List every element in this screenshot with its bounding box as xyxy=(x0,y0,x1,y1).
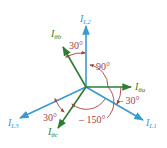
phasor-diagram: IL2 IL1 IL3 Iθa Iθb Iθc 30° 90° – 30° 30… xyxy=(0,0,167,148)
angle-label-30-top: 30° xyxy=(69,40,83,51)
label-IL1: IL1 xyxy=(145,117,157,130)
label-Ib: Iθb xyxy=(50,28,62,41)
label-IL3: IL3 xyxy=(7,117,19,130)
angle-label-neg150: – 150° xyxy=(78,114,106,125)
label-Ia: Iθa xyxy=(134,81,146,94)
angle-label-neg30: – 30° xyxy=(117,95,140,106)
angle-label-30-bottom: 30° xyxy=(43,112,57,123)
angle-arc-30-bottom xyxy=(56,101,64,112)
label-IL2: IL2 xyxy=(79,13,91,26)
angle-arc-30-top xyxy=(68,53,85,56)
label-Ic: Iθc xyxy=(47,126,59,139)
angle-label-90: 90° xyxy=(96,61,110,72)
